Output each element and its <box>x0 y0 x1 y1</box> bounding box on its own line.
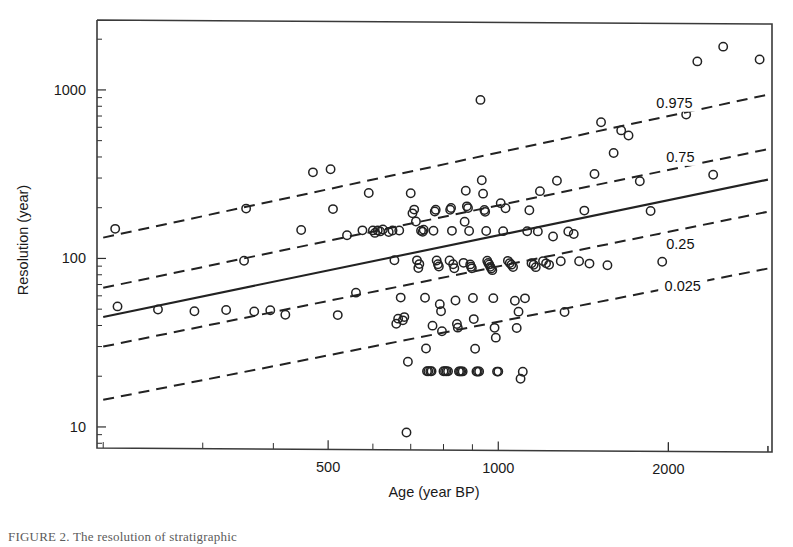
figure-caption: FIGURE 2. The resolution of stratigraphi… <box>0 532 793 547</box>
scatter-plot: 0.9750.750.250.025 50010002000 101001000… <box>0 0 793 547</box>
x-axis-title: Age (year BP) <box>388 484 479 500</box>
x-tick-label: 500 <box>316 459 340 475</box>
quantile-label-0p75: 0.75 <box>666 149 694 165</box>
figure-container: 0.9750.750.250.025 50010002000 101001000… <box>0 0 793 547</box>
quantile-label-0p25: 0.25 <box>666 236 694 252</box>
y-tick-label: 100 <box>62 250 86 266</box>
figure-caption-text: FIGURE 2. The resolution of stratigraphi… <box>8 532 237 545</box>
x-tick-label: 2000 <box>652 461 684 477</box>
quantile-label-0p025: 0.025 <box>665 278 701 294</box>
y-tick-label: 1000 <box>54 82 86 98</box>
x-tick-label: 1000 <box>482 460 514 476</box>
quantile-label-0p975: 0.975 <box>656 95 692 111</box>
y-axis-title: Resolution (year) <box>15 185 31 295</box>
y-tick-label: 10 <box>70 419 86 435</box>
